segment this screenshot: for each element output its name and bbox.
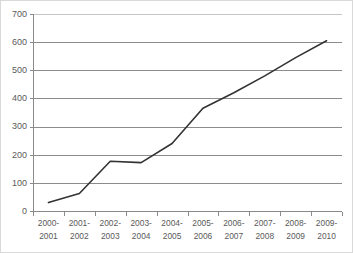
y-tick-label-700: 700	[12, 9, 27, 19]
y-tick-label-200: 200	[12, 150, 27, 160]
x-tick-label-0-line2: 2001	[39, 231, 58, 241]
y-tick-label-0: 0	[22, 206, 27, 216]
y-tick-label-400: 400	[12, 93, 27, 103]
x-tick-label-2-line1: 2002-	[100, 218, 122, 228]
x-tick-label-2-line2: 2003	[101, 231, 120, 241]
x-tick-label-9-line1: 2009-	[316, 218, 338, 228]
x-tick-label-7-line2: 2008	[255, 231, 274, 241]
x-tick-label-1-line2: 2002	[70, 231, 89, 241]
x-tick-label-4-line1: 2004-	[161, 218, 183, 228]
x-tick-label-6-line1: 2006-	[223, 218, 245, 228]
x-tick-label-0-line1: 2000-	[38, 218, 60, 228]
x-tick-label-5-line1: 2005-	[192, 218, 214, 228]
y-tick-label-600: 600	[12, 37, 27, 47]
x-tick-label-7-line1: 2007-	[254, 218, 276, 228]
x-tick-label-5-line2: 2006	[194, 231, 213, 241]
x-tick-label-9-line2: 2010	[317, 231, 336, 241]
x-tick-label-3-line2: 2004	[132, 231, 151, 241]
y-tick-label-500: 500	[12, 65, 27, 75]
x-tick-label-8-line1: 2008-	[285, 218, 307, 228]
line-chart-figure: 01002003004005006007002000-20012001-2002…	[0, 0, 353, 253]
chart-canvas: 01002003004005006007002000-20012001-2002…	[1, 1, 353, 253]
x-tick-label-8-line2: 2009	[286, 231, 305, 241]
y-tick-label-300: 300	[12, 121, 27, 131]
x-tick-label-6-line2: 2007	[225, 231, 244, 241]
x-tick-label-3-line1: 2003-	[130, 218, 152, 228]
x-tick-label-1-line1: 2001-	[69, 218, 91, 228]
series-line-0	[48, 41, 326, 203]
x-tick-label-4-line2: 2005	[163, 231, 182, 241]
y-tick-label-100: 100	[12, 178, 27, 188]
